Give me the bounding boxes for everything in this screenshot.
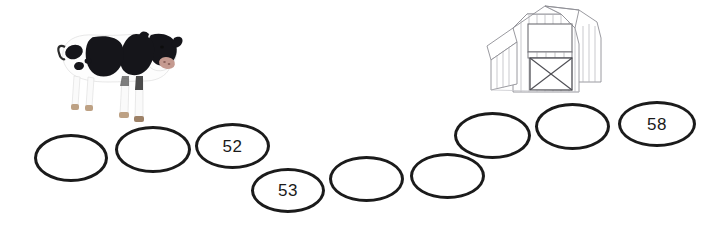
path-oval[interactable]: 58 <box>618 101 696 147</box>
path-oval[interactable] <box>535 103 610 150</box>
path-oval[interactable] <box>34 134 108 182</box>
oval-value: 58 <box>647 116 667 133</box>
path-oval[interactable] <box>454 112 531 159</box>
barn-image <box>483 4 609 100</box>
path-oval[interactable]: 52 <box>195 123 270 169</box>
path-oval[interactable] <box>410 153 485 199</box>
path-oval[interactable] <box>329 156 404 202</box>
worksheet-canvas: 52 53 58 <box>0 0 719 229</box>
path-oval[interactable]: 53 <box>251 168 325 213</box>
oval-value: 52 <box>223 138 243 155</box>
cow-image <box>50 14 182 130</box>
path-oval[interactable] <box>115 126 191 173</box>
oval-value: 53 <box>278 182 298 199</box>
